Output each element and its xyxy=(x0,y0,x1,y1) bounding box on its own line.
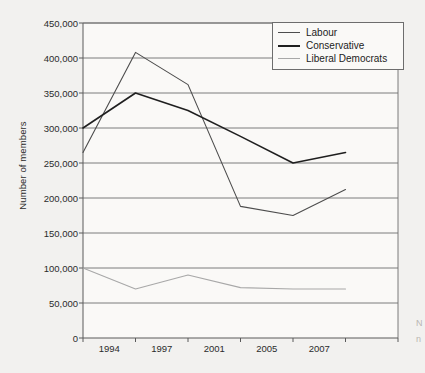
legend-swatch-conservative xyxy=(278,45,300,47)
x-tick-label: 2005 xyxy=(256,343,277,354)
legend-item-labour: Labour xyxy=(278,26,398,39)
x-tick-label: 1997 xyxy=(151,343,172,354)
legend-label-liberal-democrats: Liberal Democrats xyxy=(306,52,387,65)
x-tick-label: 2001 xyxy=(204,343,225,354)
x-tick-label: 2007 xyxy=(309,343,330,354)
page-edge-fragment-bottom: n xyxy=(416,334,421,344)
page-edge-fragment-top: N xyxy=(416,318,423,328)
legend-label-labour: Labour xyxy=(306,26,337,39)
membership-line-chart: Number of members 450,000400,000350,0003… xyxy=(0,0,425,373)
legend-item-conservative: Conservative xyxy=(278,39,398,52)
x-axis-ticks xyxy=(83,338,398,342)
legend-swatch-labour xyxy=(278,32,300,33)
plot-background xyxy=(83,23,398,338)
x-tick-label: 1994 xyxy=(99,343,120,354)
y-axis-ticks xyxy=(79,23,83,338)
chart-legend: Labour Conservative Liberal Democrats xyxy=(272,22,404,70)
legend-label-conservative: Conservative xyxy=(306,39,364,52)
legend-swatch-liberal-democrats xyxy=(278,58,300,59)
legend-item-liberal-democrats: Liberal Democrats xyxy=(278,52,398,65)
